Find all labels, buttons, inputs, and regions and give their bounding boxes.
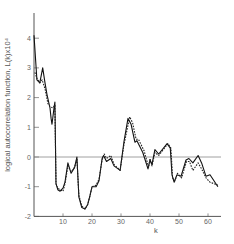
x-tick-label: 50 bbox=[175, 218, 183, 225]
x-tick-label: 30 bbox=[117, 218, 125, 225]
y-tick-label: 2 bbox=[27, 94, 31, 101]
y-tick-label: 1 bbox=[27, 124, 31, 131]
y-tick-label: -1 bbox=[25, 183, 31, 190]
x-tick-label: 40 bbox=[146, 218, 154, 225]
y-tick-label: 4 bbox=[27, 35, 31, 42]
x-axis-label: k bbox=[154, 226, 158, 235]
y-tick-label: -2 bbox=[25, 213, 31, 220]
x-tick-label: 20 bbox=[88, 218, 96, 225]
x-tick-label: 60 bbox=[204, 218, 212, 225]
y-tick-label: 0 bbox=[27, 154, 31, 161]
y-axis-label: logical autocorrelation function, L(k)x1… bbox=[3, 38, 12, 172]
x-tick-label: 10 bbox=[59, 218, 67, 225]
autocorrelation-chart: 102030405060-2-101234 k logical autocorr… bbox=[0, 0, 234, 244]
y-tick-label: 3 bbox=[27, 64, 31, 71]
series-line-solid bbox=[34, 35, 218, 209]
